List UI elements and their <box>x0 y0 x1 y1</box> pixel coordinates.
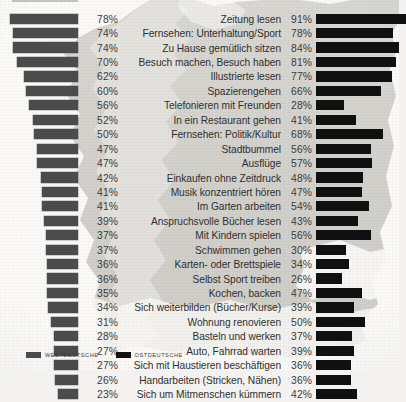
west-bar-track <box>0 200 78 214</box>
chart-row: 37%Schwimmen gehen30% <box>0 243 399 257</box>
west-value-label: 60% <box>78 86 121 97</box>
chart-row: 60%Spazierengehen66% <box>0 84 399 98</box>
west-bar-track <box>0 142 78 156</box>
ost-bar <box>316 331 352 341</box>
ost-bar <box>316 100 344 110</box>
west-value-label: 74% <box>78 43 121 54</box>
west-bar <box>51 317 78 327</box>
west-bar-track <box>0 387 78 401</box>
ost-bar-track <box>314 185 399 199</box>
chart-row: 36%Selbst Sport treiben26% <box>0 272 399 286</box>
category-label: Karten- oder Brettspiele <box>121 259 285 270</box>
category-label: Sich mit Haustieren beschäftigen <box>121 360 285 371</box>
ost-bar-track <box>314 26 399 40</box>
ost-bar-track <box>314 99 399 113</box>
category-label: Sich um Mitmenschen kümmern <box>121 389 285 400</box>
ost-bar-track <box>314 41 399 55</box>
chart-row: 26%Handarbeiten (Stricken, Nähen)36% <box>0 373 399 387</box>
west-bar <box>33 115 78 125</box>
clipped-top-row-artifact <box>0 0 399 8</box>
chart-row: 70%Besuch machen, Besuch haben81% <box>0 55 399 69</box>
west-bar <box>17 57 78 67</box>
west-bar-track <box>0 315 78 329</box>
ost-value-label: 39% <box>285 346 314 357</box>
chart-row: 23%Sich um Mitmenschen kümmern42% <box>0 387 399 401</box>
west-bar <box>44 216 78 226</box>
ost-bar-track <box>314 171 399 185</box>
west-bar-track <box>0 272 78 286</box>
west-bar-track <box>0 373 78 387</box>
ost-value-label: 54% <box>285 201 314 212</box>
west-bar <box>47 288 78 298</box>
ost-bar <box>316 115 356 125</box>
chart-row: 31%Wohnung renovieren50% <box>0 315 399 329</box>
ost-value-label: 28% <box>285 100 314 111</box>
ost-value-label: 77% <box>285 71 314 82</box>
west-bar <box>55 375 78 385</box>
chart-row: 56%Telefonieren mit Freunden28% <box>0 99 399 113</box>
west-bar <box>42 187 78 197</box>
ost-bar-track <box>314 344 399 358</box>
category-label: Besuch machen, Besuch haben <box>121 57 285 68</box>
ost-bar-track <box>314 243 399 257</box>
west-bar <box>54 331 78 341</box>
ost-bar-track <box>314 229 399 243</box>
ost-value-label: 78% <box>285 28 314 39</box>
ost-value-label: 81% <box>285 57 314 68</box>
west-bar-track <box>0 330 78 344</box>
west-bar <box>47 259 78 269</box>
west-bar-track <box>0 185 78 199</box>
ost-value-label: 48% <box>285 173 314 184</box>
west-value-label: 41% <box>78 201 121 212</box>
ost-value-label: 30% <box>285 245 314 256</box>
ost-value-label: 26% <box>285 274 314 285</box>
ost-value-label: 50% <box>285 317 314 328</box>
ost-bar <box>316 288 362 298</box>
west-bar <box>34 129 78 139</box>
west-value-label: 42% <box>78 173 121 184</box>
west-value-label: 47% <box>78 144 121 155</box>
west-bar-track <box>0 257 78 271</box>
chart-row: 36%Karten- oder Brettspiele34% <box>0 257 399 271</box>
chart-row: 34%Sich weiterbilden (Bücher/Kurse)39% <box>0 301 399 315</box>
ost-bar-track <box>314 200 399 214</box>
ost-bar <box>316 346 354 356</box>
ost-bar-track <box>314 373 399 387</box>
ost-bar <box>316 216 358 226</box>
west-value-label: 74% <box>78 28 121 39</box>
ost-bar-track <box>314 301 399 315</box>
category-label: In ein Restaurant gehen <box>121 115 285 126</box>
category-label: Handarbeiten (Stricken, Nähen) <box>121 375 285 386</box>
west-value-label: 47% <box>78 158 121 169</box>
chart-row: 47%Stadtbummel56% <box>0 142 399 156</box>
ost-bar-track <box>314 70 399 84</box>
ost-bar-track <box>314 113 399 127</box>
west-value-label: 28% <box>78 331 121 342</box>
west-bar <box>42 201 78 211</box>
ost-bar-track <box>314 142 399 156</box>
chart-row: 39%Anspruchsvolle Bücher lesen43% <box>0 214 399 228</box>
chart-row: 62%Illustrierte lesen77% <box>0 70 399 84</box>
category-label: Anspruchsvolle Bücher lesen <box>121 216 285 227</box>
west-bar <box>13 28 78 38</box>
ost-bar-track <box>314 128 399 142</box>
legend-item: OSTDEUTSCHE <box>116 352 183 358</box>
ost-bar-track <box>314 156 399 170</box>
chart-row: 52%In ein Restaurant gehen41% <box>0 113 399 127</box>
ost-bar <box>316 230 371 240</box>
ost-value-label: 66% <box>285 86 314 97</box>
west-bar-track <box>0 243 78 257</box>
ost-value-label: 47% <box>285 288 314 299</box>
legend-swatch <box>116 352 131 358</box>
west-bar-track <box>0 171 78 185</box>
ost-bar-track <box>314 84 399 98</box>
west-value-label: 36% <box>78 274 121 285</box>
category-label: Zeitung lesen <box>121 14 285 25</box>
legend-item: WESTDEUTSCHE <box>26 352 99 358</box>
ost-bar-track <box>314 272 399 286</box>
ost-value-label: 36% <box>285 375 314 386</box>
west-value-label: 50% <box>78 129 121 140</box>
ost-value-label: 56% <box>285 144 314 155</box>
west-value-label: 27% <box>78 360 121 371</box>
ost-bar <box>316 28 393 38</box>
